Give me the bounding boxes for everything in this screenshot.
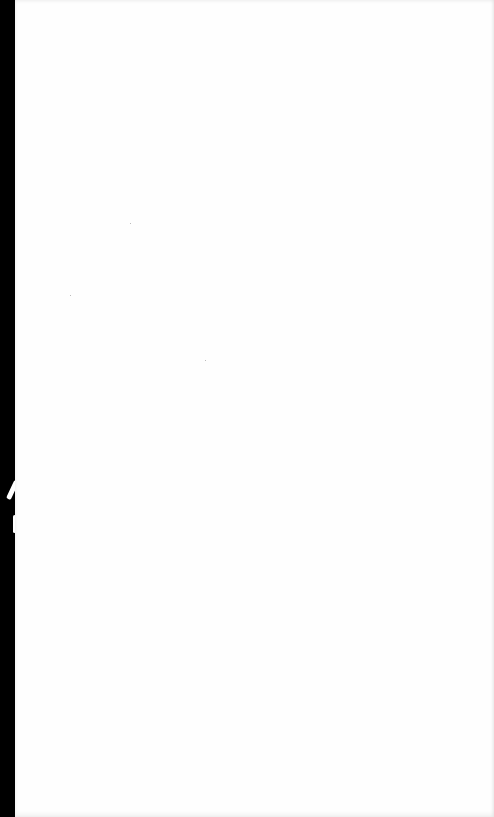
dust-speck <box>70 295 71 296</box>
scan-binding-edge <box>0 0 15 817</box>
blank-page <box>15 0 494 817</box>
dust-speck <box>205 360 206 361</box>
dust-speck <box>130 223 131 224</box>
